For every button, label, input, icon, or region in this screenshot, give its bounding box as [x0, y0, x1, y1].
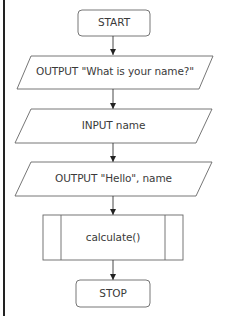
calculate-label: calculate() — [43, 231, 183, 243]
output-question-label: OUTPUT "What is your name?" — [17, 65, 213, 77]
arrowhead-icon — [110, 209, 116, 215]
arrowhead-icon — [110, 274, 116, 280]
arrowhead-icon — [110, 156, 116, 162]
input-name-label: INPUT name — [15, 119, 212, 131]
flowchart-canvas — [0, 0, 230, 316]
stop-label: STOP — [76, 287, 150, 299]
arrowhead-icon — [110, 49, 116, 55]
arrowhead-icon — [110, 103, 116, 109]
output-hello-label: OUTPUT "Hello", name — [15, 172, 212, 184]
start-label: START — [78, 16, 150, 28]
